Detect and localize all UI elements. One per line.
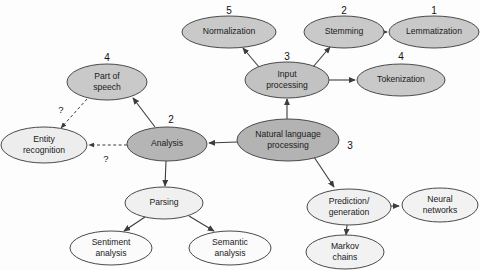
rank-label-stemming: 2 — [341, 5, 347, 16]
node-parsing[interactable]: Parsing — [125, 187, 203, 219]
node-label2-input-processing: processing — [266, 80, 308, 90]
node-label-neural-networks: Neural — [427, 194, 452, 204]
node-label2-natural-language-processing: processing — [267, 140, 309, 150]
node-markov-chains[interactable]: Markovchains — [306, 235, 384, 269]
rank-label-normalization: 5 — [226, 5, 232, 16]
node-analysis[interactable]: Analysis — [127, 127, 207, 161]
diagram-canvas: NormalizationStemmingLemmatizationInputp… — [0, 0, 480, 270]
node-label2-entity-recognition: recognition — [23, 145, 65, 155]
node-label2-semantic-analysis: analysis — [214, 248, 245, 258]
node-label-analysis: Analysis — [151, 138, 183, 148]
node-label-prediction-generation: Prediction/ — [329, 196, 370, 206]
rank-label-part-of-speech: 4 — [104, 52, 110, 63]
node-input-processing[interactable]: Inputprocessing — [245, 62, 329, 98]
node-lemmatization[interactable]: Lemmatization — [389, 16, 479, 48]
node-label2-prediction-generation: generation — [329, 207, 370, 217]
rank-label-tokenization: 4 — [398, 51, 404, 62]
node-tokenization[interactable]: Tokenization — [357, 64, 445, 96]
node-label-natural-language-processing: Natural language — [255, 129, 321, 139]
edge-prediction-to-markov-chains — [346, 225, 347, 235]
rank-label-analysis: 2 — [168, 114, 174, 125]
node-stemming[interactable]: Stemming — [304, 16, 384, 48]
concept-map-graph: NormalizationStemmingLemmatizationInputp… — [0, 0, 480, 270]
node-entity-recognition[interactable]: Entityrecognition — [1, 127, 87, 163]
node-neural-networks[interactable]: Neuralnetworks — [402, 188, 478, 222]
node-label2-markov-chains: chains — [333, 252, 358, 262]
node-label2-neural-networks: networks — [423, 205, 457, 215]
edge-label-analysis-to-entity-recognition: ? — [103, 153, 108, 164]
edge-parsing-to-semantic-analysis — [189, 216, 214, 231]
node-label-part-of-speech: Part of — [94, 71, 120, 81]
edge-analysis-to-parsing — [165, 161, 166, 186]
edge-nlp-to-prediction-generation — [314, 157, 334, 187]
node-label-stemming: Stemming — [325, 26, 364, 36]
edge-input-processing-to-stemming — [313, 47, 330, 67]
node-semantic-analysis[interactable]: Semanticanalysis — [189, 231, 271, 265]
node-sentiment-analysis[interactable]: Sentimentanalysis — [70, 231, 152, 265]
edge-input-processing-to-normalization — [243, 48, 259, 67]
node-prediction-generation[interactable]: Prediction/generation — [307, 189, 391, 225]
edge-nlp-to-analysis — [209, 142, 237, 143]
edge-part-of-speech-to-entity-recognition — [61, 99, 87, 128]
node-label-markov-chains: Markov — [331, 241, 360, 251]
node-label-semantic-analysis: Semantic — [212, 237, 249, 247]
node-label2-part-of-speech: speech — [93, 82, 121, 92]
edge-parsing-to-sentiment-analysis — [124, 217, 145, 231]
node-natural-language-processing[interactable]: Natural languageprocessing — [237, 119, 339, 161]
nodes-layer: NormalizationStemmingLemmatizationInputp… — [1, 16, 479, 269]
node-label-entity-recognition: Entity — [33, 134, 55, 144]
rank-label-input-processing: 3 — [284, 51, 290, 62]
node-label2-sentiment-analysis: analysis — [95, 248, 126, 258]
node-label-normalization: Normalization — [203, 26, 256, 36]
node-label-parsing: Parsing — [149, 197, 178, 207]
rank-label-lemmatization: 1 — [431, 5, 437, 16]
node-part-of-speech[interactable]: Part ofspeech — [67, 64, 147, 100]
node-label-lemmatization: Lemmatization — [406, 26, 462, 36]
node-normalization[interactable]: Normalization — [182, 16, 276, 48]
node-label-input-processing: Input — [277, 69, 297, 79]
edge-analysis-to-part-of-speech — [133, 98, 155, 127]
node-label-tokenization: Tokenization — [377, 74, 425, 84]
edge-label-part-of-speech-to-entity-recognition: ? — [58, 104, 63, 115]
rank-label-natural-language-processing: 3 — [347, 140, 353, 151]
node-label-sentiment-analysis: Sentiment — [92, 237, 131, 247]
